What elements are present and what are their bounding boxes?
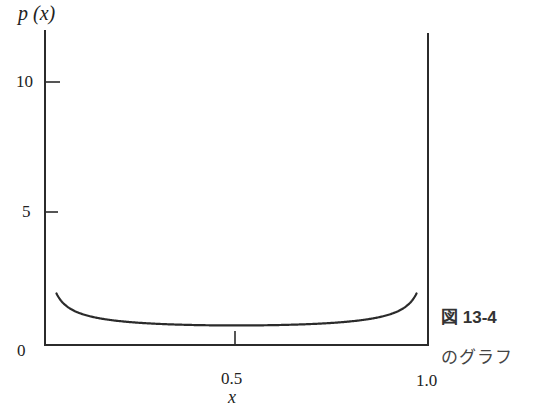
figure-caption-subtitle: のグラフ — [441, 343, 513, 368]
x-axis-label: x — [228, 387, 236, 408]
figure-caption-title: 図 13-4 — [441, 303, 497, 328]
y-tick-label-10: 10 — [16, 72, 33, 92]
density-curve — [56, 293, 416, 325]
y-tick-label-0: 0 — [17, 341, 26, 361]
x-tick-label-0-5: 0.5 — [221, 369, 242, 389]
y-axis-label: p (x) — [18, 2, 55, 25]
x-tick-label-1-0: 1.0 — [416, 371, 437, 391]
y-tick-label-5: 5 — [22, 202, 31, 222]
